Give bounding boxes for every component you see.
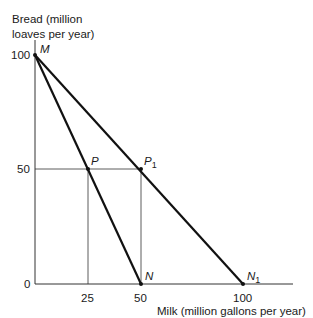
y-tick-0: 0 [24, 277, 30, 291]
x-tick-25: 25 [81, 291, 94, 305]
x-axis-label: Milk (million gallons per year) [157, 304, 306, 318]
y-tick-100: 100 [11, 48, 30, 62]
y-axis-label-line1: Bread (million [12, 12, 82, 26]
label-N1-sub: 1 [255, 275, 260, 285]
y-axis-label-line2: loaves per year) [12, 27, 94, 41]
x-tick-100: 100 [233, 291, 252, 305]
label-P: P [91, 154, 99, 168]
point-M [33, 53, 37, 57]
point-N1 [241, 282, 245, 286]
line-MN1 [35, 55, 243, 284]
label-P1-main: P [144, 155, 152, 167]
label-N: N [145, 269, 153, 283]
label-P1: P1 [144, 154, 157, 172]
x-tick-50: 50 [134, 291, 147, 305]
point-N [139, 282, 143, 286]
label-P1-sub: 1 [152, 160, 157, 170]
label-N1: N1 [247, 269, 260, 287]
point-P [86, 167, 90, 171]
point-P1 [139, 167, 143, 171]
label-M: M [40, 42, 50, 56]
y-tick-50: 50 [17, 162, 30, 176]
